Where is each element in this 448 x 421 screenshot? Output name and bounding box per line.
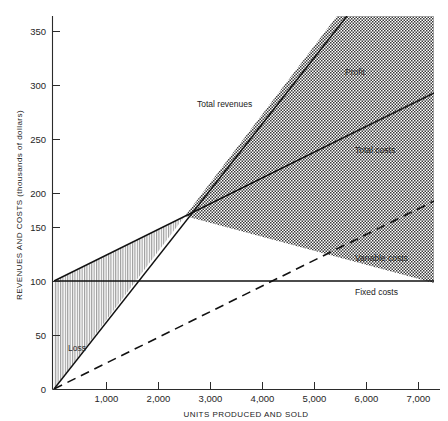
- y-tick-100: 100: [30, 276, 46, 287]
- y-tick-150: 150: [30, 222, 46, 233]
- y-tick-50: 50: [35, 330, 46, 341]
- total-costs-label: Total costs: [355, 145, 395, 155]
- chart-svg: 350 300 250 200 150 100 50 0 1,000 2: [0, 0, 448, 421]
- y-tick-200: 200: [30, 188, 46, 199]
- x-tick-1000: 1,000: [95, 393, 119, 404]
- x-axis-title: UNITS PRODUCED AND SOLD: [183, 410, 308, 419]
- x-tick-4000: 4,000: [251, 393, 275, 404]
- x-tick-7000: 7,000: [407, 393, 431, 404]
- profit-region-label: Profit: [345, 67, 365, 77]
- y-tick-350: 350: [30, 26, 46, 37]
- y-tick-300: 300: [30, 80, 46, 91]
- x-tick-2000: 2,000: [147, 393, 171, 404]
- x-tick-5000: 5,000: [303, 393, 327, 404]
- y-tick-0: 0: [41, 384, 46, 395]
- fixed-costs-label: Fixed costs: [355, 287, 398, 297]
- variable-costs-label: Variable costs: [355, 253, 408, 263]
- x-tick-6000: 6,000: [355, 393, 379, 404]
- x-tick-3000: 3,000: [199, 393, 223, 404]
- y-tick-250: 250: [30, 134, 46, 145]
- total-revenues-label: Total revenues: [197, 99, 252, 109]
- loss-region-label: Loss: [68, 343, 86, 353]
- break-even-chart: 350 300 250 200 150 100 50 0 1,000 2: [0, 0, 448, 421]
- y-axis-title: REVENUES AND COSTS (thousands of dollars…: [15, 110, 24, 300]
